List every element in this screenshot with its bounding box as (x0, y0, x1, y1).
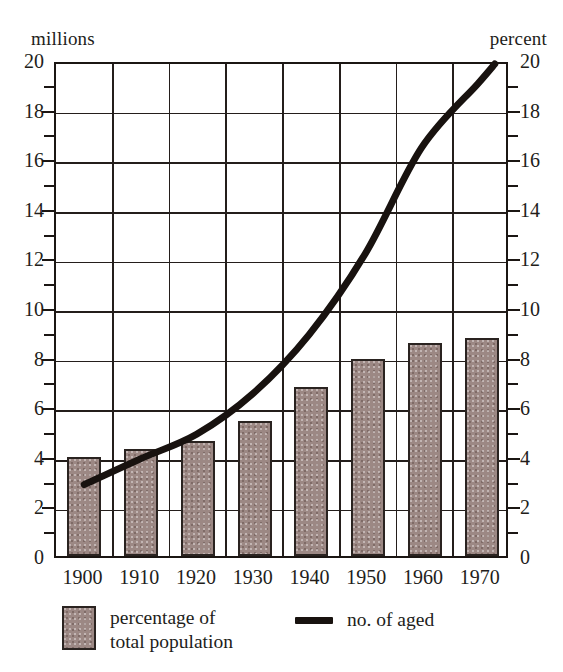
y-tick-mark-minor (44, 135, 54, 137)
y-tick-mark-minor (44, 532, 54, 534)
y-tick-label-left: 18 (24, 101, 44, 121)
y-tick-mark-minor (44, 185, 54, 187)
y-tick-mark (42, 210, 54, 212)
y-tick-label-right: 0 (520, 547, 530, 567)
y-tick-mark-minor (44, 383, 54, 385)
y-tick-mark (42, 111, 54, 113)
plot-area (54, 62, 508, 558)
y-tick-mark-minor (44, 86, 54, 88)
y-tick-mark-minor (508, 334, 518, 336)
y-tick-mark (42, 160, 54, 162)
y-tick-label-right: 10 (520, 299, 540, 319)
y-tick-mark-minor (508, 532, 518, 534)
y-tick-mark-minor (508, 483, 518, 485)
y-tick-mark-minor (44, 334, 54, 336)
x-tick-label: 1920 (167, 566, 225, 589)
no-of-aged-curve (84, 64, 495, 485)
x-tick-label: 1910 (110, 566, 168, 589)
y-tick-mark (508, 359, 520, 361)
y-tick-mark (42, 408, 54, 410)
legend-line-swatch-icon (295, 617, 333, 624)
left-axis-caption: millions (31, 28, 95, 50)
y-tick-mark (508, 111, 520, 113)
y-tick-label-right: 14 (520, 200, 540, 220)
y-tick-mark (508, 160, 520, 162)
chart-figure: millions percent 00224466881010121214141… (0, 0, 563, 672)
y-tick-label-right: 2 (520, 497, 530, 517)
y-tick-mark-minor (508, 284, 518, 286)
y-tick-mark-minor (508, 383, 518, 385)
legend-bars-label: percentage of total population (110, 606, 233, 654)
x-tick-label: 1900 (53, 566, 111, 589)
line-series (56, 64, 506, 556)
y-tick-mark-minor (508, 185, 518, 187)
x-tick-label: 1970 (451, 566, 509, 589)
y-tick-mark (42, 259, 54, 261)
x-tick-label: 1940 (280, 566, 338, 589)
y-tick-mark (42, 359, 54, 361)
y-tick-mark (42, 507, 54, 509)
y-tick-label-left: 16 (24, 150, 44, 170)
y-tick-mark-minor (508, 86, 518, 88)
y-tick-mark (508, 309, 520, 311)
y-tick-mark (508, 210, 520, 212)
y-tick-mark-minor (44, 284, 54, 286)
y-tick-label-right: 18 (520, 101, 540, 121)
y-tick-label-right: 16 (520, 150, 540, 170)
x-tick-label: 1950 (337, 566, 395, 589)
y-tick-mark-minor (44, 483, 54, 485)
x-tick-label: 1960 (394, 566, 452, 589)
y-tick-mark (42, 458, 54, 460)
y-tick-label-right: 12 (520, 249, 540, 269)
legend-bar-swatch-icon (62, 606, 96, 650)
y-tick-mark (508, 458, 520, 460)
y-tick-label-right: 20 (520, 51, 540, 71)
y-tick-label-right: 4 (520, 448, 530, 468)
legend-line-label: no. of aged (347, 608, 434, 632)
y-tick-mark-minor (508, 235, 518, 237)
y-tick-label-left: 12 (24, 249, 44, 269)
y-tick-mark-minor (508, 433, 518, 435)
right-axis-caption: percent (490, 28, 547, 50)
legend-entry-line: no. of aged (295, 608, 434, 632)
legend-entry-bars: percentage of total population (62, 606, 233, 654)
y-tick-label-left: 14 (24, 200, 44, 220)
y-tick-label-right: 6 (520, 398, 530, 418)
y-tick-mark (508, 408, 520, 410)
y-tick-mark (42, 309, 54, 311)
chart-legend: percentage of total population no. of ag… (0, 604, 563, 668)
y-tick-label-left: 0 (34, 547, 44, 567)
x-tick-label: 1930 (224, 566, 282, 589)
y-tick-mark (508, 259, 520, 261)
y-tick-mark-minor (508, 135, 518, 137)
y-tick-mark-minor (44, 235, 54, 237)
y-tick-label-left: 10 (24, 299, 44, 319)
y-tick-mark (508, 507, 520, 509)
y-tick-label-left: 20 (24, 51, 44, 71)
y-tick-mark-minor (44, 433, 54, 435)
y-tick-label-right: 8 (520, 349, 530, 369)
